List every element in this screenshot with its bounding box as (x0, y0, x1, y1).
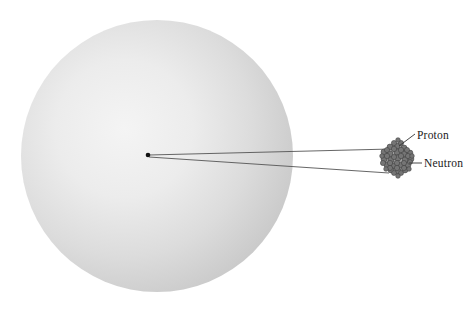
neutron-label: Neutron (424, 157, 463, 169)
nucleus-cluster (380, 138, 415, 179)
atom-center-dot (146, 153, 151, 158)
atom-structure-diagram (0, 0, 474, 310)
proton-leader-line (399, 134, 415, 146)
proton-label: Proton (417, 129, 449, 141)
electron-cloud-sphere (21, 20, 293, 292)
